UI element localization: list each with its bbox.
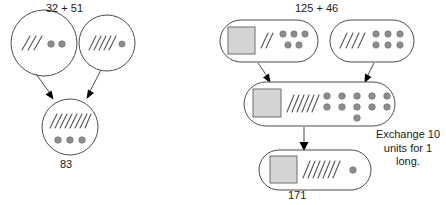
- right-arrow-to-regrouped: [300, 127, 309, 151]
- right-example-result-label: 171: [288, 189, 306, 202]
- left-example-heading: 32 + 51: [46, 2, 83, 15]
- right-addend-one-box: [220, 20, 318, 62]
- left-sum-units: [55, 137, 86, 144]
- left-addend-two-units: [119, 41, 125, 47]
- right-regrouped-units: [350, 167, 357, 174]
- left-arrow-from-addend-one: [36, 74, 54, 100]
- right-arrow-from-addend-two: [365, 63, 375, 83]
- left-sum-circle: [42, 99, 98, 155]
- exchange-note: Exchange 10 units for 1 long.: [371, 128, 445, 169]
- left-example-result-label: 83: [60, 158, 72, 171]
- right-example-heading: 125 + 46: [295, 2, 338, 15]
- left-addend-two-circle: [79, 15, 135, 71]
- right-regrouped-flat: [270, 156, 297, 183]
- right-regrouped-box: [259, 150, 371, 190]
- diagram-artwork: [0, 0, 446, 205]
- base-ten-addition-diagram: 32 + 51 83 125 + 46 171 Exchange 10 unit…: [0, 0, 446, 205]
- right-combined-box: [244, 82, 395, 126]
- right-arrow-from-addend-one: [258, 63, 271, 83]
- right-addend-one-flat: [228, 27, 255, 54]
- right-addend-two-box: [330, 20, 414, 62]
- left-addend-one-circle: [11, 10, 77, 76]
- left-arrow-from-addend-two: [87, 70, 102, 99]
- right-combined-flat: [253, 89, 281, 117]
